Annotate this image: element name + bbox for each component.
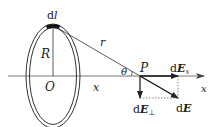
dE-vector [140, 76, 178, 98]
distance-line-r [56, 27, 140, 76]
label-x-segment: x [93, 81, 100, 94]
label-distance-r: r [100, 36, 106, 49]
label-dEperp: dE⊥ [133, 103, 155, 117]
label-dE: dE [176, 102, 192, 115]
label-origin: O [45, 80, 55, 94]
label-radius: R [40, 47, 50, 61]
label-angle-theta: θ [121, 66, 127, 77]
label-dl: dl [47, 9, 58, 22]
angle-arc [131, 71, 132, 76]
label-x-axis: x [201, 83, 207, 94]
label-point-P: P [139, 61, 149, 75]
label-dEx: dEx [170, 62, 189, 76]
ring-field-diagram: dl R r O x x θ P dEx dE⊥ dE [0, 0, 214, 127]
